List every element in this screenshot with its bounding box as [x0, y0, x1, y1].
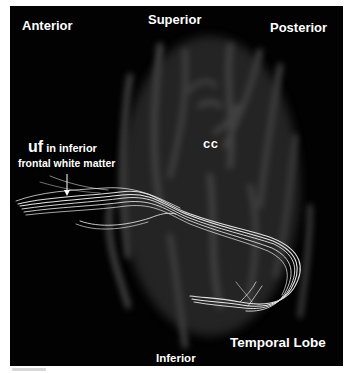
- label-uf-abbrev: uf: [28, 138, 43, 155]
- background-brain-glow: [120, 36, 300, 336]
- label-temporal-lobe: Temporal Lobe: [230, 335, 326, 350]
- label-anterior: Anterior: [22, 18, 73, 33]
- label-uf-line1-rest: in inferior: [43, 142, 97, 154]
- label-posterior: Posterior: [270, 20, 327, 35]
- brain-scan-graphic: [10, 6, 343, 366]
- label-uf-line2: frontal white matter: [18, 157, 115, 169]
- caption-fragment: [12, 368, 46, 371]
- tractography-image-panel: Anterior Superior Posterior cc uf in inf…: [10, 6, 343, 366]
- arrow-indicator: [64, 174, 70, 196]
- label-uf-line1: uf in inferior: [28, 140, 97, 155]
- label-superior: Superior: [148, 12, 201, 27]
- label-inferior: Inferior: [156, 352, 196, 364]
- label-corpus-callosum: cc: [203, 136, 218, 151]
